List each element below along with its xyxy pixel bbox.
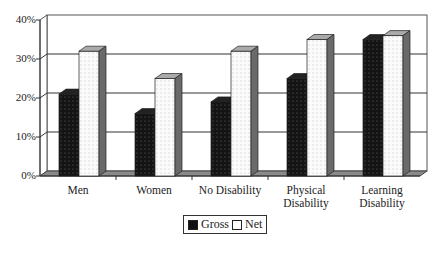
x-tick-label: PhysicalDisability — [266, 184, 346, 210]
bar-net — [79, 51, 99, 176]
gross-swatch-icon — [188, 220, 198, 230]
net-swatch-icon — [232, 220, 242, 230]
bar-net — [383, 36, 403, 176]
bar-gross — [211, 102, 231, 176]
y-tick-label: 30% — [2, 52, 36, 64]
y-tick-label: 10% — [2, 130, 36, 142]
legend-gross-label: Gross — [201, 217, 229, 232]
legend-net-label: Net — [245, 217, 262, 232]
x-tick-label: No Disability — [190, 184, 270, 197]
y-tick-label: 20% — [2, 91, 36, 103]
bar-net — [307, 40, 327, 177]
x-tick-label: Men — [38, 184, 118, 197]
x-tick-label: Women — [114, 184, 194, 197]
bar-net — [231, 51, 251, 176]
bar-gross — [287, 79, 307, 177]
bar-gross — [363, 40, 383, 177]
bar-gross — [135, 114, 155, 176]
bar-gross — [59, 94, 79, 176]
x-tick-label: LearningDisability — [342, 184, 422, 210]
y-tick-label: 0% — [2, 169, 36, 181]
bar-net — [155, 79, 175, 177]
y-tick-label: 40% — [2, 13, 36, 25]
legend: Gross Net — [183, 215, 267, 234]
